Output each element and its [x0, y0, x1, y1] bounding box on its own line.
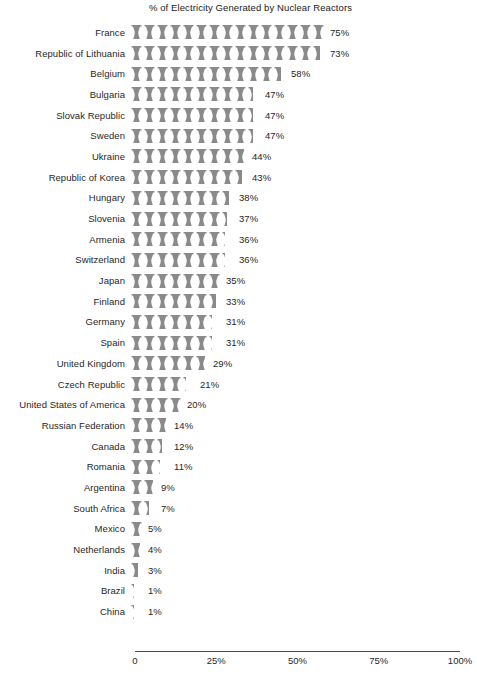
cooling-tower-icon — [169, 45, 182, 61]
cooling-tower-icon — [208, 169, 221, 185]
icon-group — [130, 436, 169, 457]
cooling-tower-icon-partial — [208, 314, 212, 330]
cooling-tower-icon — [169, 231, 182, 247]
cooling-tower-icon — [130, 169, 143, 185]
value-label: 11% — [169, 461, 192, 472]
icon-group — [130, 125, 260, 146]
category-label: Czech Republic — [0, 379, 130, 390]
cooling-tower-icon — [286, 24, 299, 40]
cooling-tower-icon — [247, 66, 260, 82]
category-label: Japan — [0, 275, 130, 286]
icon-group — [130, 43, 325, 64]
icon-group — [130, 477, 156, 498]
value-label: 14% — [169, 420, 193, 431]
chart-row: Brazil1% — [0, 581, 477, 602]
cooling-tower-icon — [156, 190, 169, 206]
cooling-tower-icon — [143, 273, 156, 289]
x-axis-tick-labels: 025%50%75%100% — [0, 655, 477, 673]
cooling-tower-icon — [130, 231, 143, 247]
cooling-tower-icon — [143, 376, 156, 392]
category-label: Argentina — [0, 482, 130, 493]
cooling-tower-icon-partial — [156, 438, 162, 454]
cooling-tower-icon — [143, 45, 156, 61]
icon-group — [130, 167, 247, 188]
cooling-tower-icon — [182, 190, 195, 206]
value-label: 31% — [221, 316, 245, 327]
value-label: 3% — [143, 565, 162, 576]
chart-title: % of Electricity Generated by Nuclear Re… — [0, 2, 477, 13]
cooling-tower-icon — [156, 376, 169, 392]
cooling-tower-icon — [169, 148, 182, 164]
chart-row: Russian Federation14% — [0, 415, 477, 436]
chart-row: Belgium58% — [0, 63, 477, 84]
cooling-tower-icon — [195, 66, 208, 82]
cooling-tower-icon-partial — [156, 417, 166, 433]
cooling-tower-icon — [143, 190, 156, 206]
cooling-tower-icon-partial — [234, 148, 244, 164]
cooling-tower-icon — [182, 66, 195, 82]
cooling-tower-icon — [195, 148, 208, 164]
cooling-tower-icon — [143, 314, 156, 330]
cooling-tower-icon-partial — [156, 459, 160, 475]
cooling-tower-icon — [130, 438, 143, 454]
chart-row: India3% — [0, 560, 477, 581]
cooling-tower-icon — [169, 211, 182, 227]
cooling-tower-icon — [195, 169, 208, 185]
cooling-tower-icon — [273, 24, 286, 40]
cooling-tower-icon — [182, 107, 195, 123]
x-axis-line — [135, 651, 460, 652]
cooling-tower-icon — [169, 169, 182, 185]
cooling-tower-icon — [182, 355, 195, 371]
icon-group — [130, 22, 325, 43]
cooling-tower-icon — [156, 293, 169, 309]
chart-row: United Kingdom29% — [0, 353, 477, 374]
cooling-tower-icon — [130, 190, 143, 206]
cooling-tower-icon — [195, 190, 208, 206]
cooling-tower-icon — [143, 397, 156, 413]
cooling-tower-icon — [143, 211, 156, 227]
category-label: Hungary — [0, 192, 130, 203]
cooling-tower-icon — [130, 293, 143, 309]
cooling-tower-icon — [143, 86, 156, 102]
cooling-tower-icon — [130, 24, 143, 40]
cooling-tower-icon — [208, 252, 221, 268]
icon-group — [130, 188, 234, 209]
cooling-tower-icon — [143, 128, 156, 144]
cooling-tower-icon — [130, 66, 143, 82]
cooling-tower-icon — [234, 107, 247, 123]
category-label: China — [0, 606, 130, 617]
icon-group — [130, 105, 260, 126]
chart-row: South Africa7% — [0, 498, 477, 519]
cooling-tower-icon — [169, 376, 182, 392]
cooling-tower-icon — [130, 252, 143, 268]
cooling-tower-icon — [195, 128, 208, 144]
cooling-tower-icon-partial — [221, 190, 229, 206]
cooling-tower-icon — [156, 128, 169, 144]
cooling-tower-icon — [143, 459, 156, 475]
category-label: Switzerland — [0, 254, 130, 265]
cooling-tower-icon — [247, 45, 260, 61]
cooling-tower-icon — [143, 231, 156, 247]
cooling-tower-icon — [130, 86, 143, 102]
category-label: United States of America — [0, 399, 130, 410]
value-label: 29% — [208, 358, 232, 369]
chart-row: Spain31% — [0, 332, 477, 353]
chart-row: Switzerland36% — [0, 250, 477, 271]
cooling-tower-icon — [143, 148, 156, 164]
cooling-tower-icon — [195, 335, 208, 351]
cooling-tower-icon — [169, 86, 182, 102]
cooling-tower-icon — [130, 314, 143, 330]
cooling-tower-icon — [143, 252, 156, 268]
value-label: 58% — [286, 68, 310, 79]
cooling-tower-icon — [182, 24, 195, 40]
value-label: 75% — [325, 27, 349, 38]
cooling-tower-icon-partial — [273, 66, 281, 82]
icon-group — [130, 332, 221, 353]
cooling-tower-icon — [221, 128, 234, 144]
category-label: Republic of Lithuania — [0, 48, 130, 59]
value-label: 1% — [143, 606, 162, 617]
cooling-tower-icon — [273, 45, 286, 61]
value-label: 37% — [234, 213, 258, 224]
icon-group — [130, 229, 234, 250]
cooling-tower-icon-partial — [221, 231, 225, 247]
